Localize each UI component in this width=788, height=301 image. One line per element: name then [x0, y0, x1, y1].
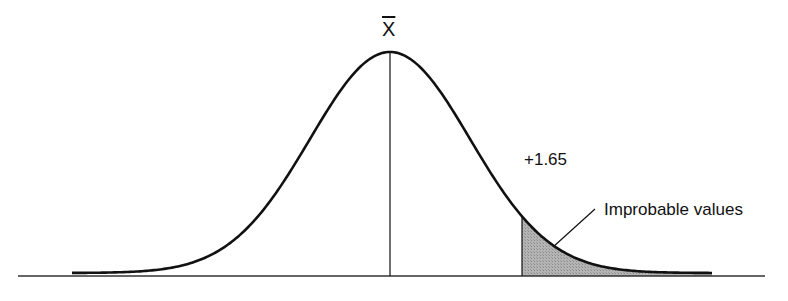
region-pointer-line: [553, 209, 595, 247]
improbable-region-shade: [522, 216, 712, 276]
normal-curve-diagram: [0, 0, 788, 301]
critical-value-label: +1.65: [524, 150, 567, 170]
normal-curve: [72, 52, 712, 273]
improbable-values-label: Improbable values: [604, 200, 743, 220]
mean-label: X: [382, 18, 395, 41]
